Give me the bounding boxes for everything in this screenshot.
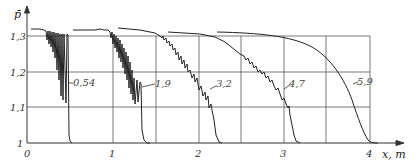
curve-label-4-7: 4,7: [288, 78, 306, 89]
curve-label-5-9: 5,9: [357, 76, 374, 87]
x-tick-1: 1: [109, 148, 115, 159]
curve-label-0-54: 0,54: [73, 77, 95, 88]
curve-label-1-9: 1,9: [155, 78, 172, 89]
x-axis-arrow-icon: [396, 141, 404, 146]
x-tick-2: 2: [194, 148, 201, 159]
y-axis-label: p̄: [14, 8, 21, 21]
leaders: [68, 82, 358, 89]
y-tick-1: 1: [17, 138, 23, 149]
y-tick-1-1: 1,1: [10, 102, 26, 113]
x-tick-0: 0: [24, 148, 31, 159]
y-axis-arrow-icon: [25, 6, 30, 13]
y-tick-1-3: 1,3: [10, 31, 26, 42]
chart: p̄ x, m 1 1,1 1,2 1,3 0 1 2 3 4 0,54 1,9…: [0, 0, 416, 166]
x-tick-3: 3: [280, 148, 286, 159]
curve-label-3-2: 3,2: [216, 78, 232, 89]
curve-0-54: [31, 29, 72, 143]
x-tick-4: 4: [365, 148, 372, 159]
curve-4-7: [168, 32, 300, 143]
x-axis-label: x, m: [382, 148, 406, 161]
y-tick-1-2: 1,2: [10, 67, 26, 78]
